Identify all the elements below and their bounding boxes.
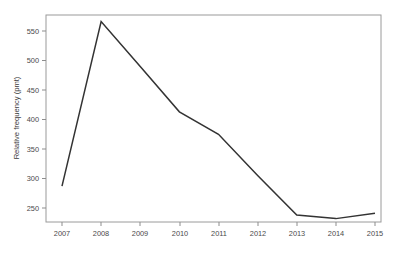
x-axis-ticks	[62, 222, 375, 226]
y-tick-label: 300	[27, 174, 39, 183]
y-tick-label: 350	[27, 145, 39, 154]
y-tick-label: 450	[27, 86, 39, 95]
x-tick-label: 2008	[93, 229, 109, 238]
x-tick-label: 2011	[211, 229, 227, 238]
chart-figure: 250 300 350 400 450 500 550 2007 2008 20…	[0, 0, 401, 253]
x-tick-label: 2007	[54, 229, 70, 238]
x-tick-label: 2010	[172, 229, 188, 238]
y-axis-title: Relative frequency (pmt)	[12, 76, 21, 159]
y-tick-label: 400	[27, 115, 39, 124]
y-axis-ticks	[42, 31, 46, 208]
y-tick-label: 250	[27, 204, 39, 213]
y-axis-tick-labels: 250 300 350 400 450 500 550	[27, 27, 39, 213]
x-tick-label: 2012	[250, 229, 266, 238]
plot-background	[46, 15, 381, 222]
x-tick-label: 2014	[328, 229, 344, 238]
x-tick-label: 2015	[367, 229, 383, 238]
x-tick-label: 2009	[132, 229, 148, 238]
line-chart: 250 300 350 400 450 500 550 2007 2008 20…	[0, 0, 401, 253]
y-tick-label: 550	[27, 27, 39, 36]
y-tick-label: 500	[27, 56, 39, 65]
x-tick-label: 2013	[289, 229, 305, 238]
x-axis-tick-labels: 2007 2008 2009 2010 2011 2012 2013 2014 …	[54, 229, 383, 238]
